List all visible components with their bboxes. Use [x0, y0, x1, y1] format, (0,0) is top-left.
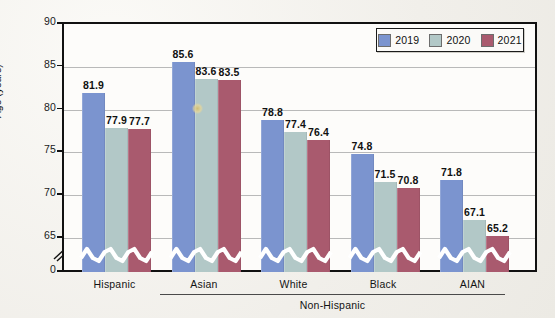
legend-label: 2020: [446, 34, 470, 46]
y-tick-label: 70: [30, 186, 56, 198]
legend-item-2021[interactable]: 2021: [481, 34, 522, 47]
legend-item-2020[interactable]: 2020: [429, 34, 470, 47]
bar[interactable]: [218, 80, 241, 272]
bar-value-label: 85.6: [165, 48, 202, 60]
bar-value-label: 76.4: [300, 126, 337, 138]
bar[interactable]: [261, 120, 284, 272]
bar-value-label: 67.1: [456, 206, 493, 218]
chart-page: Age (years) 6570758085900 81.977.977.785…: [0, 0, 555, 318]
legend-item-2019[interactable]: 2019: [378, 34, 419, 47]
y-tick-label: 90: [30, 15, 56, 27]
bar-value-label: 78.8: [254, 106, 291, 118]
y-axis-label: Age (years): [0, 64, 3, 118]
y-tick-label: 80: [30, 101, 56, 113]
bar[interactable]: [172, 62, 195, 272]
category-label-hispanic: Hispanic: [68, 278, 161, 290]
scan-artifact: [192, 103, 203, 114]
legend-label: 2021: [498, 34, 522, 46]
non-hispanic-bracket: [160, 294, 505, 295]
bar[interactable]: [440, 180, 463, 272]
legend-swatch-icon: [378, 34, 391, 47]
bar[interactable]: [374, 182, 397, 272]
bar-value-label: 77.7: [121, 115, 158, 127]
category-label-aian: AIAN: [426, 278, 519, 290]
y-tick-label: 75: [30, 143, 56, 155]
bar-value-label: 83.5: [211, 66, 248, 78]
y-tick-label: 85: [30, 58, 56, 70]
category-label-white: White: [247, 278, 340, 290]
bar-value-label: 74.8: [344, 140, 381, 152]
non-hispanic-bracket-label: Non-Hispanic: [160, 299, 505, 311]
bar-value-label: 65.2: [479, 222, 516, 234]
bar[interactable]: [105, 128, 128, 272]
legend-swatch-icon: [481, 34, 494, 47]
category-label-asian: Asian: [158, 278, 251, 290]
bar-value-label: 81.9: [75, 79, 112, 91]
gridline: [64, 67, 535, 68]
bar-value-label: 71.8: [433, 166, 470, 178]
y-tick-label-zero: 0: [30, 263, 56, 275]
bar[interactable]: [128, 129, 151, 272]
legend-label: 2019: [395, 34, 419, 46]
bar[interactable]: [397, 188, 420, 272]
y-tick-label: 65: [30, 229, 56, 241]
category-label-black: Black: [337, 278, 430, 290]
plot-area: 81.977.977.785.683.683.578.877.476.474.8…: [62, 22, 537, 272]
bar[interactable]: [486, 236, 509, 272]
legend[interactable]: 201920202021: [376, 28, 524, 52]
bar[interactable]: [284, 132, 307, 272]
legend-swatch-icon: [429, 34, 442, 47]
gridline: [64, 110, 535, 111]
bar[interactable]: [307, 140, 330, 272]
bar-value-label: 70.8: [390, 174, 427, 186]
